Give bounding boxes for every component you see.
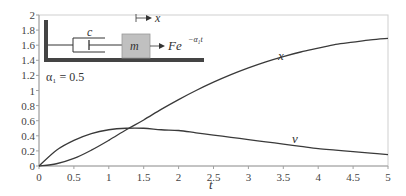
x-tick-label: 3.5 — [276, 171, 290, 183]
v-curve — [39, 128, 388, 166]
force-label: Fe — [167, 38, 182, 53]
y-tick-label: 1.6 — [21, 39, 35, 51]
x-tick-label: 4 — [315, 171, 321, 183]
chart: 00.511.522.533.544.55 00.20.40.60.811.21… — [0, 0, 406, 196]
y-tick-label: 0.6 — [21, 115, 35, 127]
y-ticks: 00.20.40.60.811.21.41.61.82 — [21, 9, 39, 172]
x-tick-label: 4.5 — [346, 171, 360, 183]
y-tick-label: 0.8 — [21, 100, 35, 112]
x-tick-label: 0 — [36, 171, 42, 183]
x-curve — [39, 38, 388, 166]
parameter-label: α₁ = 0.5 — [46, 70, 84, 84]
x-tick-label: 1 — [106, 171, 112, 183]
mass-label: m — [130, 39, 139, 53]
y-tick-label: 1.8 — [21, 24, 35, 36]
y-tick-label: 0 — [30, 160, 36, 172]
x-tick-label: 5 — [385, 171, 391, 183]
displacement-label: x — [154, 11, 161, 25]
x-curve-label: x — [277, 48, 284, 63]
y-tick-label: 0.2 — [21, 145, 35, 157]
y-tick-label: 1 — [30, 85, 36, 97]
force-arrowhead — [159, 43, 165, 49]
force-exponent: −α₁t — [188, 35, 203, 44]
wall — [44, 20, 48, 62]
v-curve-label: v — [292, 131, 298, 146]
y-tick-label: 0.4 — [21, 130, 35, 142]
x-tick-label: 2 — [176, 171, 182, 183]
displacement-arrowhead — [146, 15, 152, 21]
y-tick-label: 1.2 — [21, 69, 35, 81]
x-ticks: 00.511.522.533.544.55 — [36, 166, 391, 183]
x-axis-label: t — [209, 177, 213, 192]
x-tick-label: 1.5 — [137, 171, 151, 183]
ground — [44, 58, 204, 62]
x-tick-label: 3 — [246, 171, 252, 183]
y-tick-label: 2 — [30, 9, 36, 21]
damper-label: c — [87, 25, 93, 39]
mass-damper-diagram: c m x Fe −α₁t — [44, 11, 204, 62]
x-tick-label: 0.5 — [67, 171, 81, 183]
y-tick-label: 1.4 — [21, 54, 35, 66]
